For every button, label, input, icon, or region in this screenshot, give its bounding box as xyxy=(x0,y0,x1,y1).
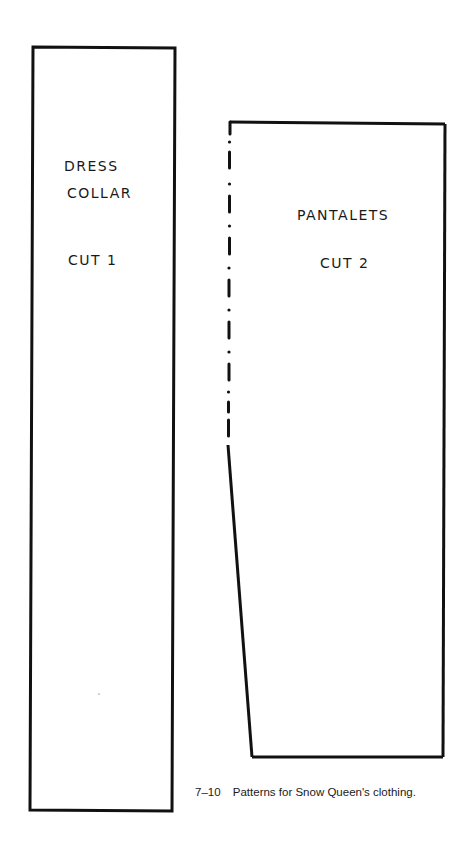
pantalets-label: PANTALETS xyxy=(297,207,389,223)
dress-collar-cut-instruction: CUT 1 xyxy=(68,252,117,268)
figure-caption-text: Patterns for Snow Queen's clothing. xyxy=(233,786,416,798)
dress-collar-label-line2: COLLAR xyxy=(67,185,132,201)
figure-number: 7–10 xyxy=(195,786,221,798)
fold-line-dash-dot xyxy=(227,122,231,436)
pattern-drawing xyxy=(0,0,474,845)
paper-speck xyxy=(98,693,100,695)
dress-collar-label-line1: DRESS xyxy=(64,158,119,174)
figure-caption: 7–10 Patterns for Snow Queen's clothing. xyxy=(195,786,416,798)
pantalets-cut-instruction: CUT 2 xyxy=(320,255,369,271)
